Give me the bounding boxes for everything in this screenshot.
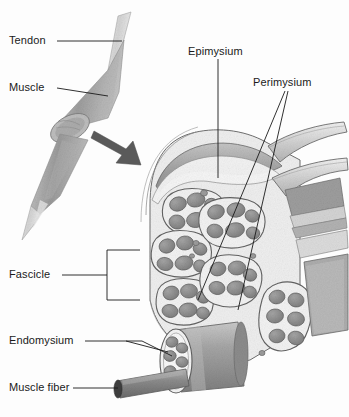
label-epimysium: Epimysium (188, 45, 243, 57)
label-tendon: Tendon (9, 34, 46, 46)
label-endomysium: Endomysium (9, 334, 74, 346)
label-muscle-fiber: Muscle fiber (9, 381, 70, 393)
cylinder-end (234, 322, 248, 386)
label-perimysium: Perimysium (253, 76, 311, 88)
label-fascicle: Fascicle (9, 268, 50, 280)
blood-vessel (193, 240, 199, 245)
fascicle-group (199, 198, 265, 248)
blood-vessel (259, 350, 265, 355)
muscle-anatomy-figure (0, 0, 349, 417)
fascicle-group (259, 282, 312, 351)
fiber-rod-cut-end (114, 380, 122, 398)
blood-vessel (201, 190, 208, 196)
label-muscle: Muscle (9, 81, 44, 93)
blood-vessel (189, 254, 194, 258)
fascicle-group (200, 255, 262, 307)
